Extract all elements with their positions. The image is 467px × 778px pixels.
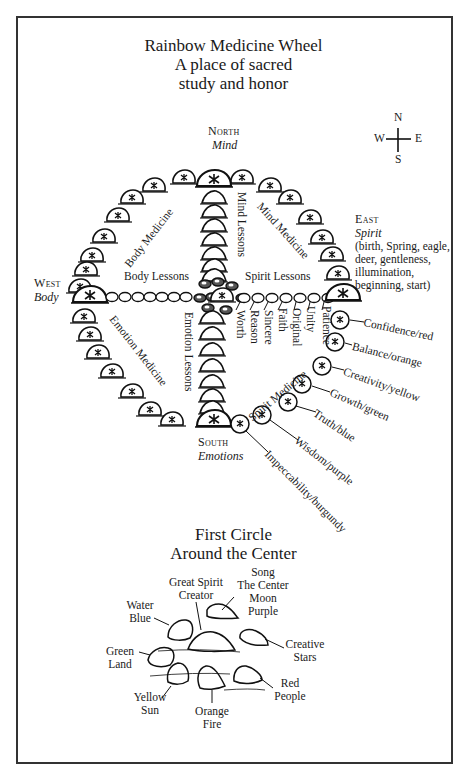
emotion-lessons-label: Emotion Lessons [182,312,195,392]
water-label-2: Blue [120,612,160,625]
mind-lessons-label: Mind Lessons [235,192,248,257]
east-detail-3: illumination, [355,266,414,279]
title-line-1: Rainbow Medicine Wheel [0,36,467,56]
west-label: West [34,277,61,291]
compass-e: E [415,132,422,145]
compass-n: N [394,111,402,124]
path-stone-worth: Worth [234,310,247,338]
song-label-2: The Center [232,579,294,592]
green-label-2: Land [100,658,140,671]
creative-label-1: Creative [280,638,330,651]
compass-w: W [374,132,385,145]
north-label: North [208,125,239,139]
east-detail-2: deer, gentleness, [355,253,431,266]
first-circle-title-2: Around the Center [0,544,467,564]
east-detail-4: beginning, start) [355,279,430,292]
green-label-1: Green [100,645,140,658]
first-circle-title-1: First Circle [0,525,467,545]
path-stone-reason: Reason [248,310,261,344]
south-label: South [198,436,228,450]
compass-s: S [395,153,401,166]
east-detail-1: (birth, Spring, eagle, [355,240,450,253]
yellow-label-1: Yellow [130,691,170,704]
spirit-lessons-label: Spirit Lessons [245,270,311,283]
orange-label-1: Orange [190,705,234,718]
title-line-3: study and honor [0,74,467,94]
east-meaning: Spirit [355,227,382,241]
orange-label-2: Fire [190,718,234,731]
yellow-label-2: Sun [130,704,170,717]
path-stone-original: Original [290,308,303,346]
water-label-1: Water [120,599,160,612]
song-label-4: Purple [232,605,294,618]
body-lessons-label: Body Lessons [124,270,189,283]
title-line-2: A place of sacred [0,55,467,75]
red-label-2: People [268,690,312,703]
path-stone-unity: Unity [304,306,317,332]
south-meaning: Emotions [198,450,243,464]
west-meaning: Body [34,291,59,305]
song-label-1: Song [232,566,294,579]
red-label-1: Red [268,677,312,690]
great-spirit-label-2: Creator [160,589,232,602]
path-stone-faith: Faith [276,308,289,332]
great-spirit-label-1: Great Spirit [160,576,232,589]
song-label-3: Moon [232,592,294,605]
path-stone-patience: Patience [320,306,333,345]
north-meaning: Mind [212,139,237,153]
path-stone-sincere: Sincere [262,310,275,344]
east-label: East [355,213,379,227]
creative-label-2: Stars [280,651,330,664]
